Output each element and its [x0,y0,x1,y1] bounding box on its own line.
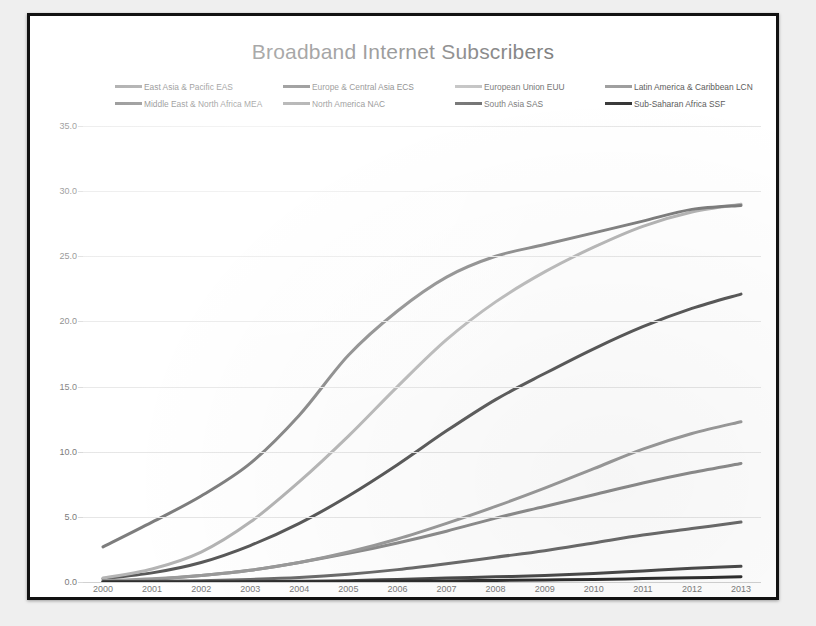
x-axis-tick-label: 2009 [535,584,555,594]
series-lines [83,126,761,582]
y-axis-tick-label: 35.0 [59,121,77,131]
legend-label: South Asia SAS [484,99,543,109]
legend-item-sas[interactable]: South Asia SAS [455,95,605,112]
x-axis-tick-label: 2011 [633,584,652,594]
legend-swatch-icon [455,85,482,88]
series-line-euu [103,204,741,578]
x-axis: 2000200120022003200420052006200720082009… [83,584,761,604]
legend-swatch-icon [455,102,482,105]
x-axis-tick-label: 2000 [93,584,113,594]
y-axis-tick-label: 0.0 [64,577,77,587]
gridline [83,256,761,257]
legend-label: Latin America & Caribbean LCN [634,82,753,92]
legend-item-euu[interactable]: European Union EUU [455,78,605,95]
legend-swatch-icon [283,102,310,105]
legend-item-eas[interactable]: East Asia & Pacific EAS [115,78,283,95]
legend-item-ssf[interactable]: Sub-Saharan Africa SSF [605,95,725,112]
gridline [83,191,761,192]
y-axis-tick-mark [78,452,83,453]
x-axis-tick-label: 2006 [387,584,407,594]
gridline [83,387,761,388]
legend-label: North America NAC [312,99,385,109]
y-axis-tick-label: 25.0 [59,251,77,261]
y-axis-tick-label: 15.0 [59,382,77,392]
y-axis-tick-mark [78,387,83,388]
legend-label: Middle East & North Africa MEA [144,99,262,109]
y-axis-tick-mark [78,126,83,127]
slide-frame: Broadband Internet Subscribers East Asia… [27,13,779,600]
x-axis-tick-label: 2010 [584,584,604,594]
legend-item-mea[interactable]: Middle East & North Africa MEA [115,95,283,112]
legend-swatch-icon [605,102,632,105]
chart-legend: East Asia & Pacific EASEurope & Central … [115,78,725,112]
x-axis-tick-label: 2007 [437,584,457,594]
y-axis-tick-mark [78,256,83,257]
x-axis-tick-label: 2001 [142,584,162,594]
x-axis-tick-label: 2005 [338,584,358,594]
y-axis-tick-label: 30.0 [59,186,77,196]
x-axis-tick-label: 2004 [289,584,309,594]
series-line-lcn [103,422,741,581]
gridline [83,452,761,453]
legend-swatch-icon [605,85,632,88]
screenshot-canvas: Broadband Internet Subscribers East Asia… [0,0,816,626]
legend-label: East Asia & Pacific EAS [144,82,233,92]
y-axis-tick-label: 10.0 [59,447,77,457]
x-axis-tick-label: 2002 [191,584,211,594]
legend-item-ecs[interactable]: Europe & Central Asia ECS [283,78,455,95]
gridline [83,321,761,322]
gridline [83,126,761,127]
x-axis-tick-label: 2013 [731,584,751,594]
y-axis-tick-mark [78,582,83,583]
x-axis-tick-label: 2012 [682,584,702,594]
plot-area: 0.05.010.015.020.025.030.035.0 [83,126,761,582]
y-axis-tick-mark [78,191,83,192]
gridline [83,582,761,583]
chart-slide: Broadband Internet Subscribers East Asia… [30,16,776,597]
y-axis-tick-mark [78,321,83,322]
x-axis-tick-label: 2003 [240,584,260,594]
gridline [83,517,761,518]
y-axis-tick-label: 20.0 [59,316,77,326]
chart-title: Broadband Internet Subscribers [30,40,776,64]
legend-swatch-icon [115,85,142,88]
legend-label: Europe & Central Asia ECS [312,82,414,92]
y-axis-tick-mark [78,517,83,518]
legend-item-lcn[interactable]: Latin America & Caribbean LCN [605,78,725,95]
legend-label: Sub-Saharan Africa SSF [634,99,725,109]
y-axis-tick-label: 5.0 [64,512,77,522]
x-axis-tick-label: 2008 [486,584,506,594]
legend-item-nac[interactable]: North America NAC [283,95,455,112]
legend-label: European Union EUU [484,82,565,92]
legend-swatch-icon [115,102,142,105]
legend-swatch-icon [283,85,310,88]
